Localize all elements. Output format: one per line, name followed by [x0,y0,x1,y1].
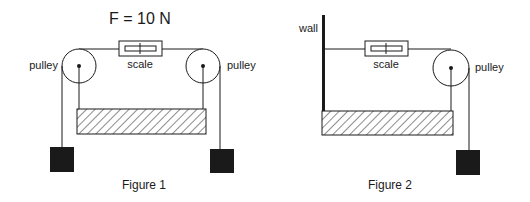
scale-label: scale [127,58,153,70]
figure-2-caption: Figure 2 [368,178,412,192]
scale-label: scale [373,58,399,70]
spring-scale [365,41,408,56]
diagram-canvas: F = 10 N scale pulley pulley [0,0,530,202]
pulley-label: pulley [475,61,504,73]
hatched-board [77,109,206,134]
right-pulley-label: pulley [227,59,256,71]
right-weight [210,149,234,173]
wall [322,15,325,111]
hanging-weight [456,150,480,175]
pulley [433,50,469,111]
left-pulley [62,49,96,109]
force-label: F = 10 N [109,10,171,27]
right-pulley [186,49,220,109]
left-pulley-label: pulley [29,59,58,71]
wall-label: wall [298,22,318,34]
figure-1: F = 10 N scale pulley pulley [29,10,256,192]
spring-scale [119,41,162,56]
figure-2: wall scale pulley Figure 2 [298,15,504,192]
figure-1-caption: Figure 1 [122,178,166,192]
hatched-board [322,111,453,135]
left-weight [50,147,74,172]
